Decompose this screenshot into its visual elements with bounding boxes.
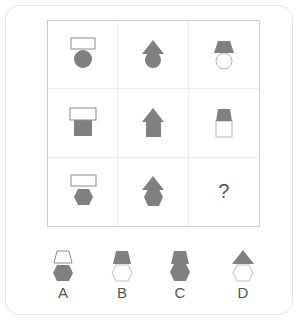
option-b-label: B <box>102 285 142 301</box>
grid-cell-missing: ? <box>189 158 259 226</box>
option-d[interactable]: D <box>223 246 263 301</box>
option-a-label: A <box>43 285 83 301</box>
option-d-label: D <box>223 285 263 301</box>
option-c-label: C <box>160 285 200 301</box>
grid-cell-r2c2 <box>118 89 188 157</box>
option-b[interactable]: B <box>102 246 142 301</box>
trapezoid-over-hexagon-outline-icon <box>107 246 137 282</box>
trapezoid-outline-over-hexagon-icon <box>48 246 78 282</box>
option-a[interactable]: A <box>43 246 83 301</box>
triangle-over-circle-icon <box>133 32 173 78</box>
grid-cell-r1c2 <box>118 21 188 89</box>
answer-options: A B C D <box>0 246 299 311</box>
rectangle-over-square-icon <box>63 100 103 146</box>
grid-cell-r1c3 <box>189 21 259 89</box>
rectangle-over-hexagon-icon <box>63 169 103 215</box>
grid-cell-r2c3 <box>189 89 259 157</box>
trapezoid-over-hexagon-icon <box>165 246 195 282</box>
trapezoid-over-circle-icon <box>204 32 244 78</box>
triangle-over-hexagon-icon <box>133 169 173 215</box>
rectangle-over-circle-icon <box>63 32 103 78</box>
trapezoid-over-square-icon <box>204 100 244 146</box>
question-mark: ? <box>218 180 229 203</box>
grid-cell-r1c1 <box>48 21 118 89</box>
grid-cell-r3c2 <box>118 158 188 226</box>
grid-cell-r2c1 <box>48 89 118 157</box>
puzzle-grid: ? <box>47 20 260 227</box>
triangle-over-hexagon-outline-icon <box>228 246 258 282</box>
triangle-over-square-icon <box>133 100 173 146</box>
option-c[interactable]: C <box>160 246 200 301</box>
grid-cell-r3c1 <box>48 158 118 226</box>
